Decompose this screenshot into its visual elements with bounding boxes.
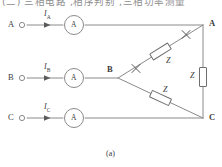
ammeter-label-b: A xyxy=(71,74,76,82)
current-label-ib: IB xyxy=(44,63,50,73)
impedance-label-z-ab: Z xyxy=(166,57,170,65)
current-label-ic: IC xyxy=(44,103,50,113)
terminal-dot-b xyxy=(19,75,24,80)
terminal-label-b: B xyxy=(8,73,14,82)
impedance-box-z-ca xyxy=(200,68,207,87)
current-subscript-ic: C xyxy=(47,107,51,113)
current-label-ia: IA xyxy=(44,10,51,20)
terminal-label-c: C xyxy=(8,113,14,122)
node-label-c: C xyxy=(209,113,215,122)
current-arrow-a xyxy=(44,22,51,28)
break-mark-a-side xyxy=(182,31,190,39)
node-label-b: B xyxy=(107,65,113,74)
current-subscript-ia: A xyxy=(47,14,51,20)
terminal-label-a: A xyxy=(8,20,14,29)
ammeter-label-a: A xyxy=(71,21,76,29)
impedance-box-z-bc xyxy=(150,90,172,105)
circuit-schematic xyxy=(0,0,222,167)
current-arrow-c xyxy=(44,115,51,121)
node-label-a: A xyxy=(209,19,215,28)
current-arrow-b xyxy=(44,75,51,81)
terminal-dot-c xyxy=(19,115,24,120)
circuit-figure: (二) 三相电路 ,相序判别 ,三相功率测量 xyxy=(0,0,222,167)
figure-caption: (a) xyxy=(106,150,115,158)
ammeter-label-c: A xyxy=(71,114,76,122)
impedance-label-z-bc: Z xyxy=(163,86,167,94)
terminal-dot-a xyxy=(19,22,24,27)
current-subscript-ib: B xyxy=(47,67,51,73)
impedance-label-z-ca: Z xyxy=(190,72,194,80)
